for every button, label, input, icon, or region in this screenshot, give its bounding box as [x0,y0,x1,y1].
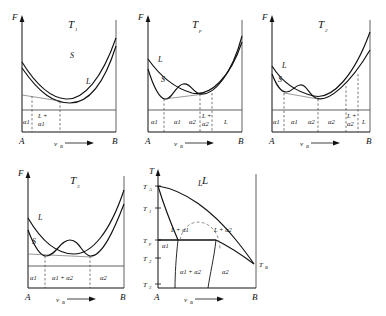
ytick-T3-sub: 3 [149,285,152,290]
region-label-liquid: L [361,118,366,125]
x-axis-direction-arrow [217,297,224,302]
ytick-T1-sub: 1 [149,209,151,214]
left-component-label: A [24,292,31,302]
region-label-alpha2: α2 [189,118,196,125]
curve-label-S: S [70,51,74,60]
region-label-alpha2: α2 [100,274,107,281]
panel-phase-diagram: T L T A T 1 T p T 2 T 3 L L + α1 L + α2 … [140,162,290,312]
region-label-alpha1-b: α1 [174,118,181,125]
right-component-label: B [238,136,244,146]
region-label-alpha1-a: α1 [151,118,158,125]
field-label-liquid: L [197,179,203,188]
region-label-alpha1-a: α1 [273,118,280,125]
common-tangent [28,254,92,257]
ytick-T3: T [143,281,148,289]
panel-T1: F T 1 S L α1 L + α1 A B v B [8,6,128,156]
ytick-T2: T [143,255,148,263]
y-axis-label: T [149,166,155,176]
curve-label-S: S [161,75,165,84]
x-axis-label-sub: B [190,300,193,305]
ytick-TB: T [259,261,264,269]
alpha1-right-boundary [175,240,178,288]
left-component-label: A [144,136,151,146]
panel-title: T [192,18,199,30]
panel-title-sub: 1 [75,27,78,32]
region-label-L-plus: L + [201,112,212,119]
ytick-T1: T [143,205,148,213]
ytick-Tp-sub: p [148,241,152,246]
y-axis-arrow [146,15,151,22]
curve-label-S: S [32,237,36,246]
y-axis-label: F [137,12,144,22]
panel-title-sub: 2 [325,28,328,33]
region-label-alpha1: α1 [30,274,37,281]
panel-T3: F T 3 L S α1 α1 + α2 α2 A B v B [14,162,138,312]
panel-T2: F T 2 L S α1 α1 α2 α2 L + α2 L A B v B [258,6,382,156]
y-axis-arrow [156,169,161,176]
x-axis-label: v [56,296,60,304]
solid-free-energy-curve [28,204,124,256]
left-component-label: A [268,136,275,146]
y-axis-arrow [20,15,25,22]
curve-label-L: L [85,77,91,86]
curve-label-L: L [157,55,163,64]
x-axis-label-sub: B [306,144,309,149]
x-axis-direction-arrow [87,141,94,146]
x-axis-label: v [54,140,58,148]
y-axis-arrow [26,171,31,178]
x-axis-label: v [184,296,188,304]
panel-title-sub: 3 [77,184,80,189]
right-component-label: B [366,136,372,146]
panel-title: T [70,174,77,186]
x-axis-label: v [300,140,304,148]
ytick-TA-sub: A [148,187,152,192]
y-axis-label: F [17,168,24,178]
ytick-T2-sub: 2 [149,259,152,264]
liquid-free-energy-curve [22,46,116,103]
left-component-label: A [153,292,160,302]
curve-label-L: L [37,213,43,222]
region-label-alpha2-a: α2 [308,118,315,125]
panel-title: T [318,18,325,30]
region-label-alpha2-c: α2 [347,120,354,127]
region-label-alpha2-b: α2 [202,120,209,127]
region-label-alpha2-b: α2 [328,118,335,125]
ytick-TB-sub: B [265,265,268,270]
curve-label-S: S [278,75,282,84]
right-component-label: B [112,136,118,146]
liquid-free-energy-curve [148,42,242,94]
field-label-alpha1-plus-alpha2: α1 + α2 [180,268,202,275]
x-axis-direction-arrow [333,141,340,146]
alpha2-left-boundary [208,240,216,288]
y-axis-arrow [270,15,275,22]
alpha2-solidus-curve [216,240,254,264]
panel-Tp: F T p L S α1 α1 α2 L + α2 L A B v B [134,6,254,156]
region-label-alpha1-b: α1 [38,120,45,127]
left-component-label: A [18,136,25,146]
region-label-alpha1-b: α1 [291,118,298,125]
panel-title: T [68,18,75,30]
liquid-free-energy-curve [272,32,370,96]
field-label-L-plus-alpha2: L + α2 [213,226,233,233]
right-component-label: B [252,292,258,302]
panel-title-sub: p [198,28,202,33]
x-axis-label-sub: B [62,300,65,305]
x-axis-label-sub: B [60,144,63,149]
field-label-alpha2: α2 [222,268,229,275]
region-label-alpha1-plus-alpha2: α1 + α2 [52,274,74,281]
curve-label-L: L [281,61,287,70]
solid-free-energy-curve [22,38,116,99]
right-component-label: B [120,292,126,302]
y-axis-label: F [261,12,268,22]
ytick-TA: T [143,183,148,191]
x-axis-label: v [174,140,178,148]
field-label-L-plus-alpha1: L + α1 [170,226,189,233]
region-label-L-plus: L + [37,112,48,119]
x-axis-direction-arrow [89,297,96,302]
region-label-liquid: L [223,118,228,125]
ytick-Tp: T [143,237,148,245]
solid-free-energy-curve [148,36,242,99]
region-label-alpha1: α1 [23,118,30,125]
region-label-L-plus: L + [346,112,357,119]
x-axis-label-sub: B [180,144,183,149]
